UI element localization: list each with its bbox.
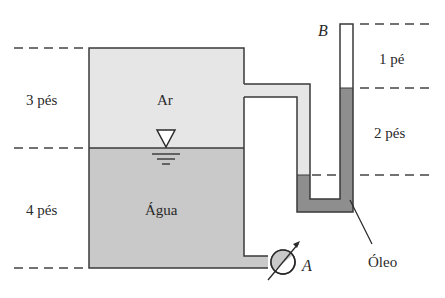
air-height-label: 3 pés	[26, 92, 57, 108]
right-dimension-lines	[312, 24, 430, 175]
oil-leader-line	[350, 200, 372, 244]
point-b-label: B	[318, 22, 328, 39]
air-label: Ar	[157, 92, 173, 108]
pressure-gauge-a	[268, 241, 300, 280]
water-label: Água	[145, 202, 178, 218]
manometer-diagram: 3 pés 4 pés Ar Água B A 1 pé 2 pés Óleo	[0, 0, 445, 298]
left-dimension-lines	[14, 48, 84, 268]
open-column	[340, 24, 353, 88]
oil-difference-label: 2 pés	[374, 125, 405, 141]
gauge-pipe	[244, 256, 268, 268]
water-height-label: 4 pés	[26, 202, 57, 218]
point-a-label: A	[301, 257, 312, 274]
upper-column-label: 1 pé	[379, 51, 405, 67]
oil-label: Óleo	[368, 254, 397, 270]
